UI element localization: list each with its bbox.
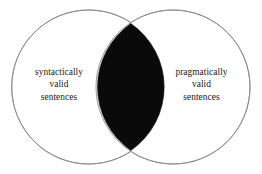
left-set-label-line-2: valid	[0, 78, 118, 90]
left-set-label-line-3: sentences	[0, 91, 118, 103]
left-set-label: syntactically valid sentences	[0, 66, 118, 103]
right-set-label-line-2: valid	[143, 78, 260, 90]
right-set-label-line-1: pragmatically	[143, 66, 260, 78]
left-set-label-line-1: syntactically	[0, 66, 118, 78]
venn-diagram-canvas: syntactically valid sentences pragmatica…	[0, 0, 262, 174]
right-set-label-line-3: sentences	[143, 91, 260, 103]
right-set-label: pragmatically valid sentences	[143, 66, 260, 103]
